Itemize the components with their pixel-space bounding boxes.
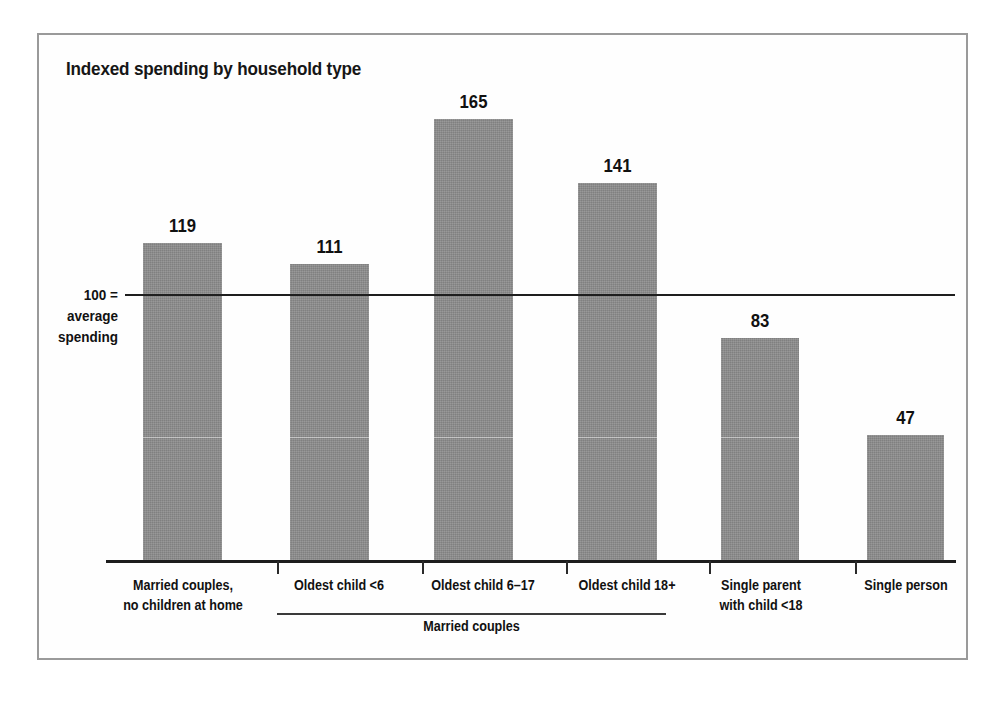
category-label-single-parent: Single parent with child <18 xyxy=(706,575,816,615)
plot-area: 119 111 165 141 83 47 100 = average spen… xyxy=(0,0,1006,704)
category-axis xyxy=(106,560,956,563)
axis-tick xyxy=(277,561,279,574)
category-label-line-2: no children at home xyxy=(116,595,251,615)
axis-tick xyxy=(709,561,711,574)
reference-line-label: 100 = average spending xyxy=(48,284,118,347)
category-label-married-couples-no-children: Married couples, no children at home xyxy=(116,575,251,615)
category-label-line-1: Single person xyxy=(851,575,961,595)
group-bracket-label: Married couples xyxy=(296,618,646,634)
category-label-line-1: Single parent xyxy=(706,575,816,595)
scan-seam xyxy=(434,437,513,438)
bar-oldest-child-18-plus xyxy=(578,183,657,560)
chart-figure: Indexed spending by household type 119 1… xyxy=(0,0,1006,704)
category-label-line-1: Married couples, xyxy=(116,575,251,595)
category-label-line-1: Oldest child 6–17 xyxy=(423,575,544,595)
axis-tick xyxy=(422,561,424,574)
bar-married-couples-no-children xyxy=(143,243,222,560)
axis-tick xyxy=(566,561,568,574)
bar-value-label: 47 xyxy=(872,407,940,429)
reference-label-line-3: spending xyxy=(48,326,118,347)
group-bracket-rule xyxy=(277,613,666,615)
category-label-single-person: Single person xyxy=(851,575,961,595)
scan-seam xyxy=(143,437,222,438)
bar-value-label: 111 xyxy=(295,236,365,258)
bar-oldest-child-6-17 xyxy=(434,119,513,560)
bar-single-person xyxy=(867,435,944,560)
scan-seam xyxy=(578,437,657,438)
category-label-line-1: Oldest child <6 xyxy=(279,575,400,595)
reference-line-100 xyxy=(125,294,955,296)
bar-value-label: 83 xyxy=(726,310,795,332)
category-label-line-1: Oldest child 18+ xyxy=(567,575,688,595)
category-label-oldest-child-under-6: Oldest child <6 xyxy=(279,575,400,595)
bar-value-label: 141 xyxy=(583,155,653,177)
bar-value-label: 119 xyxy=(148,215,218,237)
category-label-line-2: with child <18 xyxy=(706,595,816,615)
axis-tick xyxy=(855,561,857,574)
reference-label-line-1: 100 = xyxy=(48,284,118,305)
scan-seam xyxy=(721,437,799,438)
category-label-oldest-child-6-17: Oldest child 6–17 xyxy=(423,575,544,595)
bar-oldest-child-under-6 xyxy=(290,264,369,560)
scan-seam xyxy=(290,437,369,438)
reference-label-line-2: average xyxy=(48,305,118,326)
bar-single-parent-with-child xyxy=(721,338,799,560)
bar-value-label: 165 xyxy=(439,91,509,113)
category-label-oldest-child-18-plus: Oldest child 18+ xyxy=(567,575,688,595)
